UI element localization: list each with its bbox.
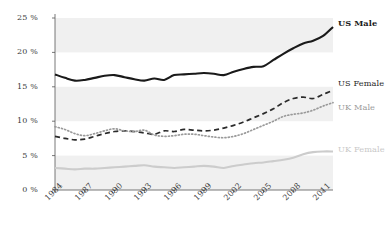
y-axis-tick-label: 20 % xyxy=(4,47,38,56)
legend-label-uk-male: UK Male xyxy=(338,102,375,112)
background-band xyxy=(55,87,333,121)
y-axis-tick-label: 10 % xyxy=(4,116,38,125)
legend-label-us-male: US Male xyxy=(338,18,377,28)
y-axis-tick-label: 25 % xyxy=(4,13,38,22)
background-band xyxy=(55,18,333,52)
legend-label-us-female: US Female xyxy=(338,78,384,88)
plot-area xyxy=(0,0,389,237)
y-axis-tick-label: 15 % xyxy=(4,82,38,91)
y-axis-tick-label: 5 % xyxy=(4,151,38,160)
y-axis-tick-label: 0 % xyxy=(4,185,38,194)
legend-label-uk-female: UK Female xyxy=(338,144,385,154)
line-chart: 0 %5 %10 %15 %20 %25 %198419871990199319… xyxy=(0,0,389,237)
